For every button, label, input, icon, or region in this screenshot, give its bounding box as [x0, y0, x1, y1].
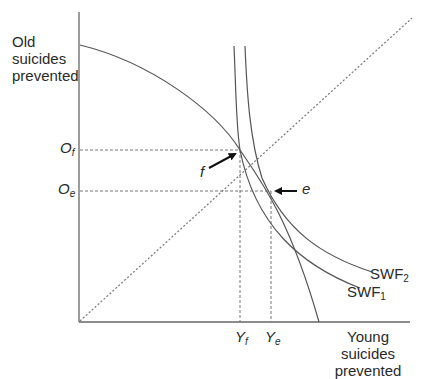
- y-label-line-1: Old: [12, 34, 79, 51]
- swf2-curve: [245, 46, 372, 272]
- oe-base: O: [58, 180, 70, 197]
- yf-tick-label: Yf: [235, 329, 248, 347]
- y-label-line-3: prevented: [12, 68, 79, 85]
- swf1-base: SWF: [347, 283, 380, 300]
- swf2-label: SWF2: [370, 266, 409, 284]
- swf2-base: SWF: [370, 265, 403, 282]
- x-axis-label: Young suicides prevented: [318, 329, 418, 379]
- ye-tick-label: Ye: [265, 329, 281, 347]
- ye-base: Y: [265, 328, 275, 345]
- of-tick-label: Of: [60, 140, 74, 158]
- y-label-line-2: suicides: [12, 51, 79, 68]
- swf1-label: SWF1: [347, 284, 386, 302]
- of-base: O: [60, 139, 72, 156]
- yf-sub: f: [245, 336, 248, 347]
- point-f-label: f: [200, 164, 204, 181]
- swf2-sub: 2: [403, 273, 409, 284]
- ppf-curve: [80, 45, 319, 322]
- ye-sub: e: [275, 336, 281, 347]
- oe-tick-label: Oe: [58, 181, 75, 199]
- f-arrow: [209, 154, 235, 168]
- yf-base: Y: [235, 328, 245, 345]
- x-label-line-2: prevented: [318, 363, 418, 379]
- swf1-sub: 1: [380, 291, 386, 302]
- of-sub: f: [72, 147, 75, 158]
- y-axis-label: Old suicides prevented: [12, 34, 79, 84]
- oe-sub: e: [70, 188, 76, 199]
- x-label-line-1: Young suicides: [318, 329, 418, 363]
- point-e-label: e: [302, 181, 310, 198]
